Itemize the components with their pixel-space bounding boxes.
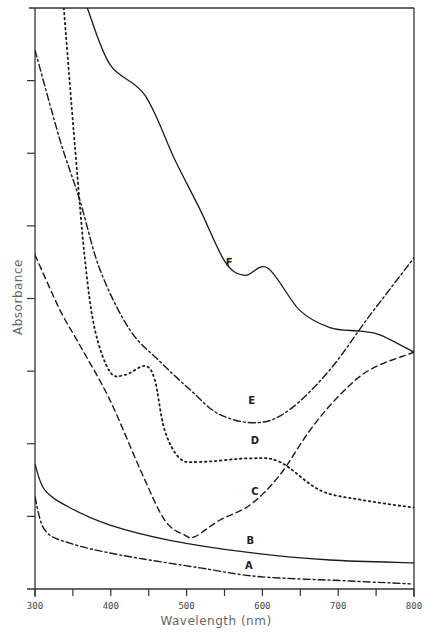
series-b-line (35, 464, 414, 563)
curve-label-d: D (251, 435, 259, 446)
curve-label-f: F (226, 257, 233, 268)
curve-label-a: A (245, 560, 253, 571)
curve-label-b: B (246, 535, 254, 546)
curve-label-c: C (251, 486, 258, 497)
x-tick-label: 400 (103, 601, 119, 611)
x-tick-label: 600 (254, 601, 270, 611)
series-layer (35, 8, 414, 584)
series-d-line (64, 8, 414, 508)
curve-label-e: E (248, 395, 255, 406)
series-c-line (35, 255, 414, 538)
x-tick-label: 700 (330, 601, 346, 611)
x-tick-label: 800 (406, 601, 422, 611)
x-axis-ticks: 300400500600700800 (27, 589, 422, 611)
x-tick-label: 500 (178, 601, 194, 611)
x-tick-label: 300 (27, 601, 43, 611)
x-axis-title: Wavelength (nm) (160, 614, 271, 628)
curve-labels: ABCDEF (226, 257, 259, 571)
series-a-line (35, 497, 410, 584)
absorbance-chart: 300400500600700800 ABCDEF Wavelength (nm… (0, 0, 433, 640)
plot-frame (27, 8, 414, 597)
series-f-line (87, 8, 414, 352)
y-axis-title: Absorbance (11, 259, 25, 335)
y-axis-ticks (27, 81, 35, 517)
